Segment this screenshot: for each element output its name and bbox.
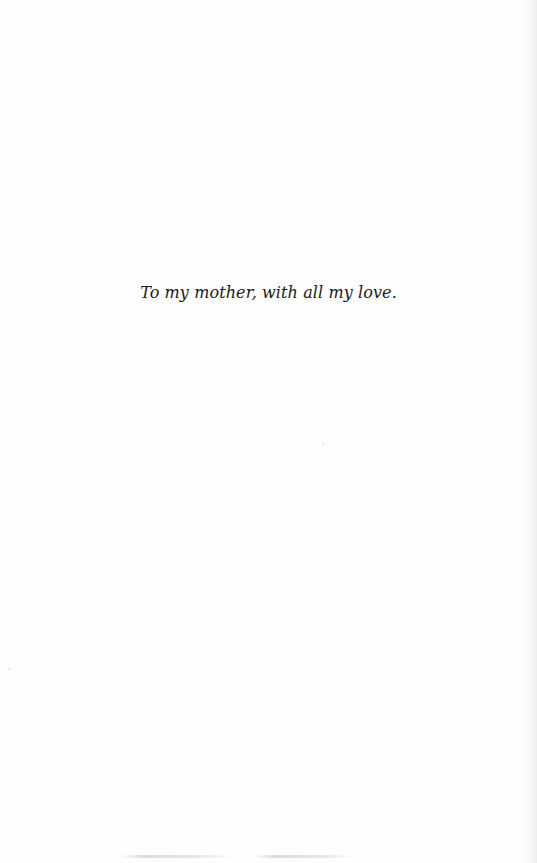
dedication-text: To my mother, with all my love.	[0, 283, 537, 302]
scan-smudge	[120, 855, 235, 858]
paper-speck	[8, 668, 10, 670]
scan-smudge	[255, 855, 355, 858]
paper-speck	[322, 443, 324, 445]
book-page: To my mother, with all my love.	[0, 0, 537, 863]
page-edge-shadow	[521, 0, 537, 863]
